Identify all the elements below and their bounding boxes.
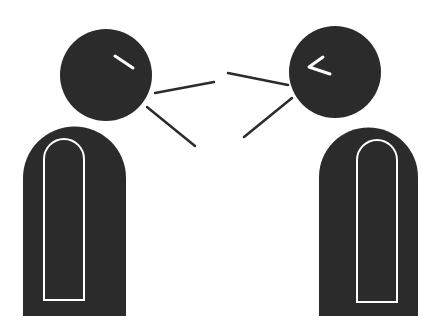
illustration-canvas — [0, 0, 438, 332]
right-body — [319, 128, 418, 317]
left-body — [23, 127, 126, 316]
right-head — [289, 26, 381, 118]
left-head — [60, 29, 152, 121]
